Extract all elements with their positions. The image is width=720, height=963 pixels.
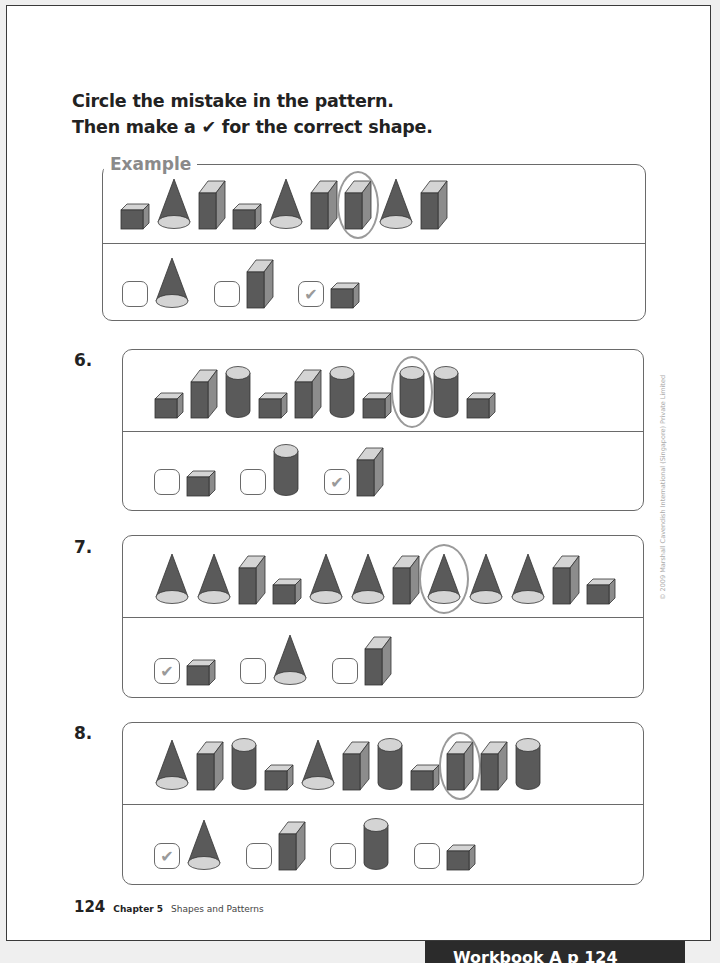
answer-option: ✔ — [154, 819, 228, 871]
cone-icon[interactable] — [156, 178, 192, 230]
prism-icon[interactable] — [480, 741, 508, 791]
cube-icon[interactable] — [258, 391, 288, 419]
answer-option: ✔ — [154, 658, 222, 686]
cone-icon — [154, 257, 190, 309]
answer-option — [240, 634, 314, 686]
cube-icon[interactable] — [586, 577, 616, 605]
question-8-options-row: ✔ — [154, 815, 500, 871]
answer-option — [214, 259, 280, 309]
instruction-text: Then make a — [72, 117, 202, 137]
cube-icon[interactable] — [362, 391, 392, 419]
question-6-options-row: ✔ — [154, 441, 408, 497]
prism-icon[interactable] — [552, 555, 580, 605]
answer-checkbox[interactable]: ✔ — [154, 658, 180, 684]
cylinder-icon[interactable] — [514, 737, 542, 791]
cone-icon[interactable] — [308, 553, 344, 605]
cone-icon[interactable] — [468, 553, 504, 605]
cone-icon[interactable] — [510, 553, 546, 605]
cube-icon[interactable] — [154, 391, 184, 419]
cube-icon[interactable] — [272, 577, 302, 605]
cube-icon[interactable] — [120, 202, 150, 230]
cylinder-icon[interactable] — [376, 737, 404, 791]
cone-icon — [272, 634, 308, 686]
answer-checkbox[interactable] — [330, 843, 356, 869]
cone-icon[interactable] — [378, 178, 414, 230]
prism-icon[interactable] — [392, 555, 420, 605]
cube-icon — [186, 658, 216, 686]
divider — [123, 431, 643, 432]
example-pattern-row — [120, 178, 454, 230]
answer-checkbox[interactable]: ✔ — [298, 281, 324, 307]
circled-prism-icon[interactable] — [344, 180, 372, 230]
cone-icon[interactable] — [196, 553, 232, 605]
answer-checkbox[interactable]: ✔ — [324, 469, 350, 495]
answer-checkbox[interactable] — [214, 281, 240, 307]
divider — [123, 617, 643, 618]
cube-icon[interactable] — [232, 202, 262, 230]
circled-prism-icon[interactable] — [446, 741, 474, 791]
answer-option — [414, 843, 482, 871]
prism-icon[interactable] — [198, 180, 226, 230]
workbook-page-tab: Workbook A p 124 — [425, 941, 685, 963]
circled-cone-icon[interactable] — [426, 553, 462, 605]
instructions: Circle the mistake in the pattern. Then … — [72, 88, 433, 140]
cone-icon[interactable] — [154, 553, 190, 605]
answer-option — [122, 257, 196, 309]
cone-icon[interactable] — [300, 739, 336, 791]
example-options-row: ✔ — [122, 253, 384, 309]
answer-checkbox[interactable]: ✔ — [154, 843, 180, 869]
instruction-text: for the correct shape. — [216, 117, 433, 137]
answer-checkbox[interactable] — [154, 469, 180, 495]
answer-checkbox[interactable] — [240, 469, 266, 495]
prism-icon[interactable] — [342, 741, 370, 791]
page-number: 124 — [74, 898, 105, 916]
cylinder-icon[interactable] — [328, 365, 356, 419]
question-number: 6. — [74, 350, 92, 370]
cylinder-icon — [272, 443, 300, 497]
cube-icon — [330, 281, 360, 309]
answer-checkbox[interactable] — [332, 658, 358, 684]
cylinder-icon[interactable] — [230, 737, 258, 791]
question-number: 7. — [74, 537, 92, 557]
prism-icon — [246, 259, 274, 309]
circled-cylinder-icon[interactable] — [398, 365, 426, 419]
prism-icon[interactable] — [238, 555, 266, 605]
cone-icon[interactable] — [154, 739, 190, 791]
question-7-pattern-row — [154, 551, 622, 605]
answer-option — [240, 443, 306, 497]
divider — [103, 243, 645, 244]
answer-option — [154, 469, 222, 497]
answer-option — [332, 636, 398, 686]
cylinder-icon — [362, 817, 390, 871]
prism-icon — [364, 636, 392, 686]
cube-icon[interactable] — [466, 391, 496, 419]
example-label: Example — [104, 154, 197, 174]
cylinder-icon[interactable] — [224, 365, 252, 419]
prism-icon[interactable] — [420, 180, 448, 230]
prism-icon[interactable] — [196, 741, 224, 791]
answer-checkbox[interactable] — [122, 281, 148, 307]
prism-icon[interactable] — [190, 369, 218, 419]
answer-checkbox[interactable] — [240, 658, 266, 684]
answer-option — [330, 817, 396, 871]
question-8-pattern-row — [154, 737, 548, 791]
page-footer: 124 Chapter 5 Shapes and Patterns — [74, 898, 264, 916]
prism-icon[interactable] — [310, 180, 338, 230]
cone-icon[interactable] — [268, 178, 304, 230]
answer-option — [246, 821, 312, 871]
divider — [123, 804, 643, 805]
cube-icon — [446, 843, 476, 871]
answer-checkbox[interactable] — [414, 843, 440, 869]
check-icon: ✔ — [202, 117, 216, 137]
question-number: 8. — [74, 723, 92, 743]
instruction-line-1: Circle the mistake in the pattern. — [72, 88, 433, 114]
cube-icon[interactable] — [410, 763, 440, 791]
cube-icon[interactable] — [264, 763, 294, 791]
answer-checkbox[interactable] — [246, 843, 272, 869]
question-7-options-row: ✔ — [154, 630, 416, 686]
cone-icon[interactable] — [350, 553, 386, 605]
answer-option: ✔ — [324, 447, 390, 497]
prism-icon — [356, 447, 384, 497]
prism-icon[interactable] — [294, 369, 322, 419]
cylinder-icon[interactable] — [432, 365, 460, 419]
